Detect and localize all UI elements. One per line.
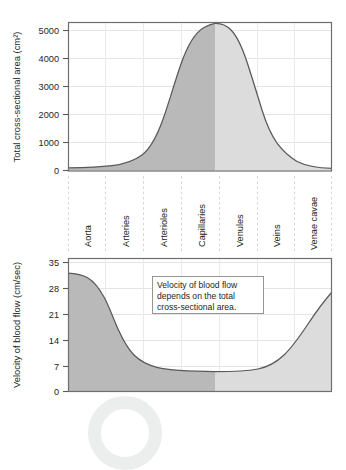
- category-label-venules: Venules: [235, 214, 245, 247]
- annotation-line-3: cross-sectional area.: [157, 302, 236, 312]
- top-ytick-5000: 5000: [39, 26, 59, 36]
- bottom-ytick-7: 7: [54, 362, 59, 372]
- top-ytick-1000: 1000: [39, 138, 59, 148]
- annotation-line-2: depends on the total: [157, 291, 235, 301]
- top-ytick-3000: 3000: [39, 82, 59, 92]
- annotation-line-1: Velocity of blood flow: [157, 280, 238, 290]
- top-y-ticks: [63, 31, 68, 171]
- annotation-callout: Velocity of blood flow depends on the to…: [153, 277, 264, 314]
- bottom-ytick-35: 35: [49, 258, 59, 268]
- bottom-panel: Velocity of blood flow (cm/sec): [11, 258, 332, 397]
- category-label-veins: Veins: [272, 224, 282, 247]
- top-ytick-4000: 4000: [39, 54, 59, 64]
- top-area-arterial: [68, 23, 215, 170]
- top-panel: Total cross-sectional area (cm²): [11, 22, 332, 176]
- bottom-ytick-14: 14: [49, 336, 59, 346]
- top-y-axis-title: Total cross-sectional area (cm²): [11, 32, 22, 163]
- category-label-aorta: Aorta: [83, 224, 93, 247]
- top-area-venous: [215, 23, 332, 170]
- bottom-y-tick-labels: 35 28 21 14 7 0: [49, 258, 59, 397]
- category-label-arteries: Arteries: [121, 215, 131, 247]
- top-y-tick-labels: 5000 4000 3000 2000 1000 0: [39, 26, 59, 176]
- bottom-ytick-21: 21: [49, 310, 59, 320]
- category-label-band: Aorta Arteries Arterioles Capillaries Ve…: [69, 176, 332, 252]
- top-ytick-0: 0: [54, 166, 59, 176]
- category-label-venae-cavae: Venae cavae: [309, 197, 319, 250]
- bottom-ytick-0: 0: [54, 387, 59, 397]
- category-label-capillaries: Capillaries: [197, 204, 207, 247]
- category-label-arterioles: Arterioles: [159, 208, 169, 247]
- bottom-y-ticks: [63, 263, 68, 392]
- top-ytick-2000: 2000: [39, 110, 59, 120]
- bottom-y-axis-title: Velocity of blood flow (cm/sec): [11, 262, 22, 388]
- bottom-ytick-28: 28: [49, 284, 59, 294]
